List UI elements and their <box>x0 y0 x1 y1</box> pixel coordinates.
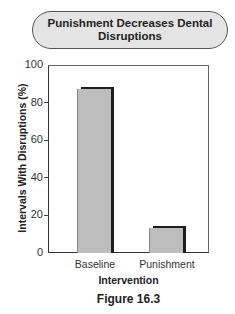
y-tick-mark <box>44 140 49 141</box>
figure-caption: Figure 16.3 <box>48 292 209 306</box>
chart-title: Punishment Decreases Dental Disruptions <box>32 11 228 49</box>
x-tick-punishment: Punishment <box>132 258 202 270</box>
y-tick-60: 60 <box>17 133 43 145</box>
bar-face <box>77 89 111 253</box>
bar-face <box>149 228 183 253</box>
bar-baseline <box>77 87 114 253</box>
bar-punishment <box>149 226 186 253</box>
y-tick-mark <box>44 177 49 178</box>
x-tick-baseline: Baseline <box>60 258 130 270</box>
y-tick-40: 40 <box>17 171 43 183</box>
y-tick-80: 80 <box>17 96 43 108</box>
y-tick-100: 100 <box>17 58 43 70</box>
y-tick-mark <box>44 102 49 103</box>
y-tick-20: 20 <box>17 208 43 220</box>
plot-area <box>48 65 209 253</box>
x-axis-label: Intervention <box>48 274 209 286</box>
y-tick-0: 0 <box>17 246 43 258</box>
y-axis-label: Intervals With Disruptions (%) <box>16 63 28 253</box>
y-tick-mark <box>44 215 49 216</box>
